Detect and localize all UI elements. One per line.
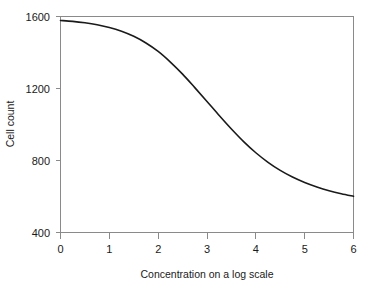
y-tick-label-1600: 1600 [26,11,50,23]
cell-count-line-chart: 1600 1200 800 400 0 1 2 3 4 5 6 Concentr… [0,0,374,288]
x-tick-label-1: 1 [106,243,112,255]
chart-container: 1600 1200 800 400 0 1 2 3 4 5 6 Concentr… [0,0,374,288]
y-axis-tick-labels: 1600 1200 800 400 [26,11,50,239]
x-axis-ticks [61,233,354,239]
x-tick-label-5: 5 [302,243,308,255]
x-tick-label-0: 0 [57,243,63,255]
x-axis-title: Concentration on a log scale [140,268,273,280]
x-axis-tick-labels: 0 1 2 3 4 5 6 [57,243,356,255]
x-tick-label-4: 4 [253,243,259,255]
data-series-line [61,20,354,196]
y-tick-label-800: 800 [32,155,50,167]
x-tick-label-3: 3 [204,243,210,255]
x-tick-label-2: 2 [155,243,161,255]
y-tick-label-1200: 1200 [26,83,50,95]
y-axis-ticks [56,17,61,233]
y-tick-label-400: 400 [32,227,50,239]
plot-frame [61,17,354,233]
x-tick-label-6: 6 [350,243,356,255]
y-axis-title: Cell count [4,101,16,148]
